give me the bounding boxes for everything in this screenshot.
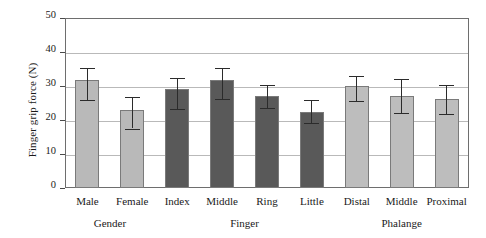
group-label: Phalange <box>334 218 469 229</box>
error-bar-cap-lower <box>215 99 230 100</box>
group-label: Gender <box>65 218 155 229</box>
category-label: Middle <box>200 196 245 207</box>
error-bar-cap-upper <box>394 79 409 80</box>
error-bar-cap-upper <box>349 76 364 77</box>
y-axis-tick-label: 10 <box>46 146 57 157</box>
bar-group-item <box>345 18 369 188</box>
error-bar <box>446 85 447 114</box>
bar-group-item <box>255 18 279 188</box>
error-bar <box>132 97 133 128</box>
y-axis-title: Finger grip force (N) <box>26 15 38 205</box>
error-bar <box>401 79 402 113</box>
error-bar-cap-lower <box>394 113 409 114</box>
group-labels: GenderFingerPhalange <box>65 218 469 236</box>
group-label: Finger <box>155 218 335 229</box>
error-bar <box>356 76 357 101</box>
error-bar-cap-upper <box>80 68 95 69</box>
error-bar-cap-upper <box>170 78 185 79</box>
category-label: Middle <box>379 196 424 207</box>
bar-group-item <box>75 18 99 188</box>
error-bar-cap-lower <box>349 101 364 102</box>
category-labels: MaleFemaleIndexMiddleRingLittleDistalMid… <box>65 196 469 214</box>
bar-group-item <box>300 18 324 188</box>
error-bar-cap-upper <box>439 85 454 86</box>
error-bar <box>267 85 268 109</box>
y-axis-tick-label: 30 <box>46 78 57 89</box>
bar-group-item <box>165 18 189 188</box>
y-axis-tick-label: 40 <box>46 44 57 55</box>
error-bar-cap-lower <box>304 123 319 124</box>
finger-grip-force-bar-chart: Finger grip force (N) 01020304050 MaleFe… <box>0 0 486 238</box>
error-bar-cap-lower <box>80 100 95 101</box>
y-axis-tick-label: 20 <box>46 112 57 123</box>
error-bar-cap-upper <box>125 97 140 98</box>
y-axis-tick-label: 0 <box>51 180 56 191</box>
error-bar-cap-lower <box>260 108 275 109</box>
category-label: Index <box>155 196 200 207</box>
error-bar-cap-upper <box>215 68 230 69</box>
y-axis-tick-label: 50 <box>46 10 57 21</box>
error-bar <box>177 78 178 109</box>
bar-group-item <box>210 18 234 188</box>
error-bar-cap-upper <box>304 100 319 101</box>
category-label: Proximal <box>424 196 469 207</box>
bars-layer <box>65 18 469 188</box>
bar-group-item <box>390 18 414 188</box>
error-bar <box>222 68 223 99</box>
error-bar-cap-upper <box>260 85 275 86</box>
category-label: Distal <box>334 196 379 207</box>
error-bar <box>311 100 312 123</box>
category-label: Male <box>65 196 110 207</box>
error-bar-cap-lower <box>170 109 185 110</box>
error-bar-cap-lower <box>125 129 140 130</box>
bar-group-item <box>435 18 459 188</box>
error-bar-cap-lower <box>439 114 454 115</box>
category-label: Little <box>289 196 334 207</box>
category-label: Female <box>110 196 155 207</box>
error-bar <box>87 68 88 99</box>
bar-group-item <box>120 18 144 188</box>
category-label: Ring <box>245 196 290 207</box>
y-axis-tick-mark <box>60 188 65 189</box>
